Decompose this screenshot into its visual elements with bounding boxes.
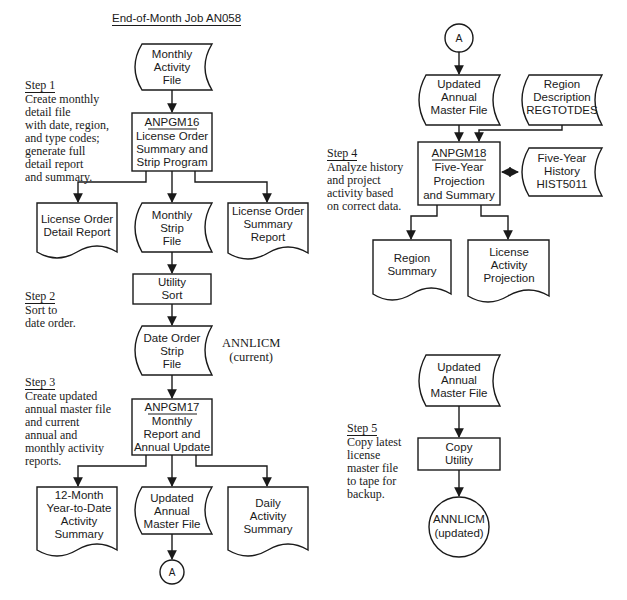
svg-text:Report and: Report and: [144, 428, 201, 440]
svg-text:Summary and: Summary and: [136, 143, 208, 155]
svg-text:License Order: License Order: [41, 213, 113, 225]
svg-text:File: File: [163, 235, 182, 247]
svg-text:Utility: Utility: [445, 454, 473, 466]
svg-text:History: History: [544, 165, 580, 177]
svg-text:License: License: [489, 246, 529, 258]
svg-text:HIST5011: HIST5011: [537, 178, 588, 190]
node-copy-utility: Copy Utility: [418, 438, 500, 470]
svg-text:Utility: Utility: [158, 276, 186, 288]
svg-text:Date Order: Date Order: [144, 332, 201, 344]
svg-text:Monthly: Monthly: [152, 48, 193, 60]
svg-text:Summary: Summary: [54, 528, 103, 540]
node-region-summary: Region Summary: [373, 240, 451, 300]
node-monthly-activity-file: Monthly Activity File: [135, 44, 212, 90]
svg-text:Projection: Projection: [483, 272, 534, 284]
node-anpgm18: ANPGM18 Five-Year Projection and Summary: [418, 142, 500, 205]
svg-text:Region: Region: [394, 252, 430, 264]
svg-text:Monthly: Monthly: [152, 415, 193, 427]
node-utility-sort: Utility Sort: [133, 274, 211, 304]
svg-text:Master File: Master File: [431, 387, 488, 399]
svg-text:Updated: Updated: [437, 361, 480, 373]
svg-text:Copy: Copy: [446, 441, 473, 453]
svg-text:Strip: Strip: [160, 222, 184, 234]
svg-text:Activity: Activity: [154, 61, 191, 73]
flowchart-svg: Monthly Activity File ANPGM16 License Or…: [0, 0, 627, 600]
svg-text:Strip Program: Strip Program: [137, 156, 208, 168]
svg-text:Monthly: Monthly: [152, 209, 193, 221]
svg-text:Five-Year: Five-Year: [538, 152, 587, 164]
node-ytd-activity-summary: 12-Month Year-to-Date Activity Summary: [37, 487, 117, 556]
svg-text:File: File: [163, 358, 182, 370]
svg-text:Updated: Updated: [437, 78, 480, 90]
svg-text:Activity: Activity: [491, 259, 528, 271]
svg-text:ANPGM18: ANPGM18: [432, 147, 487, 159]
svg-text:Report: Report: [251, 231, 286, 243]
svg-text:REGTOTDES: REGTOTDES: [526, 104, 598, 116]
svg-text:Year-to-Date: Year-to-Date: [47, 502, 112, 514]
svg-text:Region: Region: [544, 78, 580, 90]
node-license-order-summary-report: License Order Summary Report: [228, 203, 308, 259]
svg-text:Summary: Summary: [243, 218, 292, 230]
flowchart: End-of-Month Job AN058 Step 1 Create mon…: [0, 0, 627, 600]
svg-text:Activity: Activity: [61, 515, 98, 527]
svg-text:(updated): (updated): [434, 527, 483, 539]
svg-text:Detail Report: Detail Report: [43, 226, 111, 238]
svg-text:License Order: License Order: [136, 130, 208, 142]
svg-text:Summary: Summary: [387, 265, 436, 277]
svg-text:Activity: Activity: [250, 510, 287, 522]
node-license-activity-projection: License Activity Projection: [468, 240, 549, 302]
svg-text:Strip: Strip: [160, 345, 184, 357]
connector-a-in: A: [445, 24, 473, 52]
node-updated-annual-master-file-step5: Updated Annual Master File: [419, 355, 500, 406]
svg-text:ANPGM17: ANPGM17: [145, 401, 200, 413]
connector-a-out: A: [160, 560, 184, 584]
svg-text:License Order: License Order: [232, 205, 304, 217]
node-anpgm17: ANPGM17 Monthly Report and Annual Update: [132, 399, 212, 455]
svg-text:Description: Description: [533, 91, 591, 103]
svg-text:File: File: [163, 74, 182, 86]
node-updated-annual-master-file-step4: Updated Annual Master File: [419, 75, 500, 125]
svg-text:Summary: Summary: [243, 523, 292, 535]
svg-text:Annual: Annual: [441, 374, 477, 386]
node-updated-annual-master-file-step3: Updated Annual Master File: [135, 487, 212, 534]
svg-text:Daily: Daily: [255, 497, 281, 509]
svg-text:A: A: [169, 567, 176, 578]
svg-text:Projection: Projection: [433, 175, 484, 187]
node-region-description: Region Description REGTOTDES: [522, 75, 602, 125]
svg-text:Five-Year: Five-Year: [435, 161, 484, 173]
svg-text:Annual: Annual: [154, 505, 190, 517]
svg-text:Master File: Master File: [144, 518, 201, 530]
node-five-year-history: Five-Year History HIST5011: [522, 148, 602, 196]
node-license-order-detail-report: License Order Detail Report: [37, 203, 117, 258]
svg-text:Sort: Sort: [161, 289, 183, 301]
svg-text:Annual Update: Annual Update: [134, 441, 210, 453]
svg-text:ANPGM16: ANPGM16: [145, 116, 200, 128]
svg-text:A: A: [455, 32, 462, 44]
svg-text:Master File: Master File: [431, 104, 488, 116]
node-anpgm16: ANPGM16 License Order Summary and Strip …: [132, 113, 212, 171]
svg-text:Updated: Updated: [150, 492, 193, 504]
svg-text:12-Month: 12-Month: [55, 489, 104, 501]
node-daily-activity-summary: Daily Activity Summary: [228, 487, 308, 556]
node-monthly-strip-file: Monthly Strip File: [135, 203, 212, 252]
svg-text:Annual: Annual: [441, 91, 477, 103]
node-date-order-strip-file: Date Order Strip File: [135, 326, 212, 375]
svg-text:and Summary: and Summary: [423, 189, 495, 201]
node-annlicm-updated: ANNLICM (updated): [429, 497, 489, 557]
svg-text:ANNLICM: ANNLICM: [433, 513, 485, 525]
